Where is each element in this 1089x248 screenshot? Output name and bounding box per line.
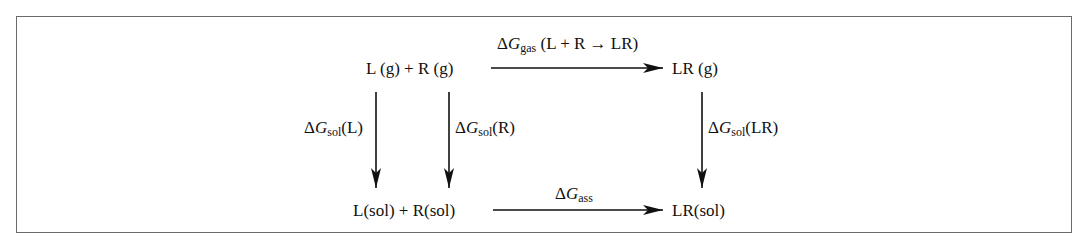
delta-symbol: Δ bbox=[708, 118, 719, 137]
g-symbol: G bbox=[566, 184, 578, 203]
delta-symbol: Δ bbox=[455, 118, 466, 137]
label-suffix: (LR) bbox=[745, 118, 778, 137]
label-delta-g-sol-R: ΔGsol(R) bbox=[455, 118, 515, 138]
delta-symbol: Δ bbox=[304, 118, 315, 137]
label-delta-g-ass: ΔGass bbox=[555, 184, 593, 204]
g-symbol: G bbox=[315, 118, 327, 137]
node-bottom-left: L(sol) + R(sol) bbox=[353, 201, 455, 221]
label-suffix: (L) bbox=[341, 118, 363, 137]
subscript: sol bbox=[731, 125, 745, 139]
label-delta-g-sol-L: ΔGsol(L) bbox=[304, 118, 363, 138]
label-suffix: (L + R → LR) bbox=[536, 34, 638, 53]
node-top-left: L (g) + R (g) bbox=[366, 59, 453, 79]
label-delta-g-sol-LR: ΔGsol(LR) bbox=[708, 118, 778, 138]
delta-symbol: Δ bbox=[555, 184, 566, 203]
node-bottom-right: LR(sol) bbox=[672, 201, 725, 221]
label-suffix: (R) bbox=[492, 118, 515, 137]
subscript: sol bbox=[478, 125, 492, 139]
subscript: ass bbox=[578, 191, 593, 205]
node-top-right: LR (g) bbox=[672, 59, 718, 79]
label-delta-g-gas: ΔGgas (L + R → LR) bbox=[497, 34, 638, 54]
delta-symbol: Δ bbox=[497, 34, 508, 53]
g-symbol: G bbox=[719, 118, 731, 137]
g-symbol: G bbox=[466, 118, 478, 137]
subscript: sol bbox=[327, 125, 341, 139]
g-symbol: G bbox=[508, 34, 520, 53]
subscript: gas bbox=[520, 41, 536, 55]
